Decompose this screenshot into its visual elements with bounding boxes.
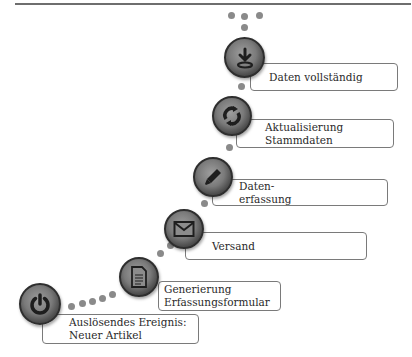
step-2-label: Generierung Erfassungsformular: [164, 283, 270, 308]
connector-dot: [226, 144, 233, 151]
refresh-icon: [220, 104, 244, 128]
download-icon: [233, 46, 257, 70]
continuation-dot: [256, 12, 263, 19]
connector-dot: [68, 303, 75, 310]
connector-dot: [238, 83, 245, 90]
step-5-circle: [212, 96, 252, 136]
continuation-dot: [228, 12, 235, 19]
step-3-label: Versand: [212, 240, 255, 252]
step-3-box: Versand: [185, 232, 367, 260]
top-rule: [15, 3, 411, 5]
step-1-box: Auslösendes Ereignis: Neuer Artikel: [42, 314, 199, 344]
connector-dot: [109, 291, 116, 298]
document-icon: [130, 266, 148, 288]
step-6-circle: [224, 37, 265, 78]
step-1-label: Auslösendes Ereignis: Neuer Artikel: [69, 316, 186, 341]
connector-dot: [89, 298, 96, 305]
step-4-label: Daten- erfassung: [239, 180, 291, 205]
continuation-dot: [241, 13, 248, 20]
connector-dot: [99, 295, 106, 302]
step-4-circle: [193, 157, 233, 197]
connector-dot: [201, 200, 208, 207]
connector-dot: [157, 250, 164, 257]
step-2-box: Generierung Erfassungsformular: [158, 281, 281, 311]
step-6-label: Daten vollständig: [269, 71, 363, 83]
step-2-circle: [119, 257, 159, 297]
connector-dot: [79, 300, 86, 307]
connector-dot: [241, 24, 248, 31]
step-5-label: Aktualisierung Stammdaten: [265, 121, 343, 146]
step-5-box: Aktualisierung Stammdaten: [236, 119, 394, 148]
pencil-icon: [202, 166, 224, 188]
mail-icon: [173, 220, 195, 238]
step-1-circle: [19, 283, 61, 325]
step-6-box: Daten vollständig: [250, 63, 398, 91]
step-4-box: Daten- erfassung: [212, 179, 388, 206]
power-icon: [28, 292, 52, 316]
step-3-circle: [164, 209, 204, 249]
